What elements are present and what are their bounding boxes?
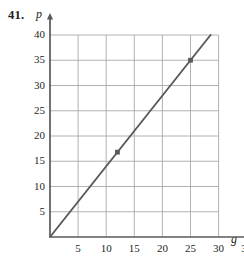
x-tick-label: 25 — [181, 242, 201, 254]
y-tick-label: 20 — [23, 129, 45, 141]
y-tick-label: 25 — [23, 104, 45, 116]
x-tick-label: 35 — [237, 242, 244, 254]
x-tick-label: 5 — [68, 242, 88, 254]
data-point-marker — [115, 150, 120, 155]
y-tick-label: 15 — [23, 154, 45, 166]
x-tick-label: 20 — [152, 242, 172, 254]
y-tick-label: 35 — [23, 53, 45, 65]
y-tick-label: 30 — [23, 79, 45, 91]
y-axis-arrow — [47, 13, 53, 19]
x-tick-label: 10 — [96, 242, 116, 254]
y-tick-label: 40 — [23, 28, 45, 40]
x-tick-label: 30 — [209, 242, 229, 254]
y-tick-label: 10 — [23, 180, 45, 192]
data-point-marker — [188, 58, 193, 63]
y-tick-label: 5 — [23, 205, 45, 217]
x-tick-label: 15 — [124, 242, 144, 254]
figure-container: 41. p g 403530252015105 5101520253035 — [0, 0, 244, 261]
axes — [47, 13, 244, 240]
